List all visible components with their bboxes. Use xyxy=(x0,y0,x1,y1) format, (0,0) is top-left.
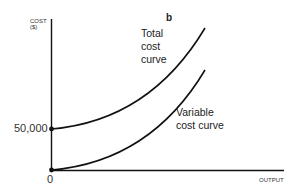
total-cost-label-line3: curve xyxy=(141,53,167,66)
x-axis-title: OUTPUT xyxy=(259,177,284,183)
y-axis-title: COST ($) xyxy=(30,18,47,30)
y-tick-50000: 50,000 xyxy=(14,122,48,134)
y-axis-title-line2: ($) xyxy=(30,24,47,30)
variable-cost-label: Variable cost curve xyxy=(176,106,224,132)
total-cost-label-line2: cost xyxy=(141,40,167,53)
origin-tick: 0 xyxy=(47,173,53,185)
fixed-cost-point xyxy=(49,127,54,132)
origin-point xyxy=(49,168,54,173)
total-cost-label: Total cost curve xyxy=(141,27,167,66)
variable-cost-label-line1: Variable xyxy=(176,106,224,119)
variable-cost-label-line2: cost curve xyxy=(176,119,224,132)
panel-label: b xyxy=(166,12,172,23)
total-cost-label-line1: Total xyxy=(141,27,167,40)
